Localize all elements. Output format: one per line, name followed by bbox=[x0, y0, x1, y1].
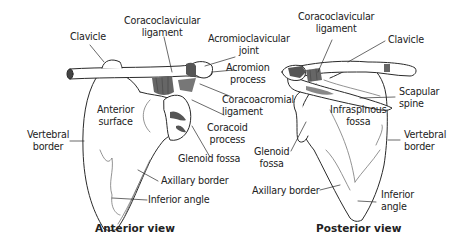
label-line: border bbox=[27, 141, 69, 153]
label-coracoid-process: Coracoid process bbox=[207, 122, 248, 146]
label-line: Coracoid bbox=[207, 122, 248, 134]
label-line: ligament bbox=[124, 27, 200, 39]
label-acromioclavicular-joint: Acromioclavicular joint bbox=[208, 33, 290, 57]
label-axillary-border-anterior: Axillary border bbox=[161, 175, 228, 187]
posterior-view-title: Posterior view bbox=[316, 222, 401, 234]
label-inferior-angle-anterior: Inferior angle bbox=[148, 194, 209, 206]
label-line: Inferior bbox=[381, 189, 414, 201]
label-acromion-process: Acromion process bbox=[226, 62, 270, 86]
label-line: Acromion bbox=[226, 62, 270, 74]
label-scapular-spine: Scapular spine bbox=[399, 86, 439, 110]
label-coracoclavicular-ligament-anterior: Coracoclavicular ligament bbox=[124, 15, 200, 39]
label-vertebral-border-posterior: Vertebral border bbox=[404, 129, 446, 153]
anterior-view-title: Anterior view bbox=[95, 222, 175, 234]
label-line: surface bbox=[97, 116, 134, 128]
label-line: ligament bbox=[222, 106, 294, 118]
label-line: joint bbox=[208, 45, 290, 57]
label-line: angle bbox=[381, 201, 414, 213]
label-line: fossa bbox=[254, 158, 289, 170]
label-line: ligament bbox=[298, 23, 374, 35]
label-inferior-angle-posterior: Inferior angle bbox=[381, 189, 414, 213]
label-line: Infraspinous bbox=[330, 104, 387, 116]
label-infraspinous-fossa: Infraspinous fossa bbox=[330, 104, 387, 128]
label-coracoclavicular-ligament-posterior: Coracoclavicular ligament bbox=[298, 11, 374, 35]
label-anterior-surface: Anterior surface bbox=[97, 104, 134, 128]
label-glenoid-fossa-anterior: Glenoid fossa bbox=[178, 153, 240, 165]
label-glenoid-fossa-posterior: Glenoid fossa bbox=[254, 146, 289, 170]
label-line: Vertebral bbox=[404, 129, 446, 141]
label-line: Glenoid bbox=[254, 146, 289, 158]
label-line: process bbox=[226, 74, 270, 86]
label-line: Vertebral bbox=[27, 129, 69, 141]
label-axillary-border-posterior: Axillary border bbox=[252, 185, 319, 197]
label-line: process bbox=[207, 134, 248, 146]
label-line: border bbox=[404, 141, 446, 153]
label-clavicle-posterior: Clavicle bbox=[388, 34, 424, 46]
label-line: Anterior bbox=[97, 104, 134, 116]
label-coracoacromial-ligament: Coracoacromial ligament bbox=[222, 94, 294, 118]
label-line: Coracoclavicular bbox=[298, 11, 374, 23]
label-line: Acromioclavicular bbox=[208, 33, 290, 45]
label-line: fossa bbox=[330, 116, 387, 128]
label-line: Coracoclavicular bbox=[124, 15, 200, 27]
label-line: spine bbox=[399, 98, 439, 110]
label-vertebral-border-anterior: Vertebral border bbox=[27, 129, 69, 153]
label-line: Coracoacromial bbox=[222, 94, 294, 106]
label-clavicle-anterior: Clavicle bbox=[70, 31, 106, 43]
label-line: Scapular bbox=[399, 86, 439, 98]
